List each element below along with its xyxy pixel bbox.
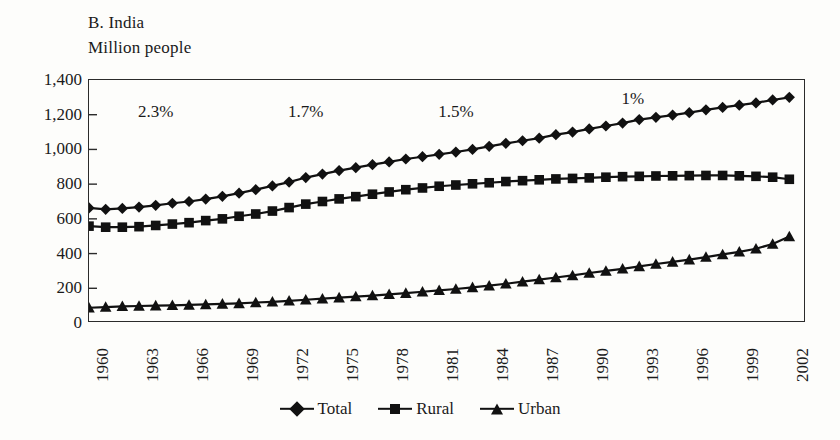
legend-label: Urban (518, 400, 560, 417)
legend-item-total[interactable]: Total (280, 400, 353, 417)
data-point-square (89, 221, 94, 231)
data-point-diamond (634, 114, 645, 125)
chart-legend: TotalRuralUrban (0, 400, 840, 417)
data-point-diamond (534, 133, 545, 144)
data-point-diamond (550, 129, 561, 140)
data-point-diamond (367, 159, 378, 170)
data-point-square (568, 174, 578, 184)
data-point-square (668, 171, 678, 181)
series-line (89, 237, 789, 308)
y-axis-labels: 02004006008001,0001,2001,400 (20, 0, 82, 440)
data-point-triangle (767, 238, 779, 249)
chart-figure: B. India Million people 02004006008001,0… (0, 0, 840, 440)
x-tick-label: 1975 (344, 348, 361, 382)
data-point-square (735, 171, 745, 181)
x-tick-label: 2002 (794, 348, 811, 382)
data-point-diamond (300, 172, 311, 183)
legend-label: Rural (416, 400, 454, 417)
data-point-square (101, 222, 111, 232)
data-point-square (551, 174, 561, 184)
y-tick-label: 400 (26, 244, 82, 261)
data-point-diamond (500, 138, 511, 149)
data-point-square (384, 187, 394, 197)
y-tick-label: 1,000 (26, 140, 82, 157)
data-point-square (401, 185, 411, 195)
data-point-triangle (784, 231, 796, 242)
growth-rate-label: 2.3% (138, 103, 173, 120)
data-point-square (584, 173, 594, 183)
data-point-square (134, 222, 144, 232)
x-tick-label: 1993 (644, 348, 661, 382)
data-point-diamond (784, 92, 795, 103)
x-tick-label: 1960 (94, 348, 111, 382)
data-point-diamond (767, 94, 778, 105)
legend-item-urban[interactable]: Urban (480, 400, 560, 417)
data-point-square (451, 180, 461, 190)
data-point-square (785, 174, 795, 184)
figure-title: B. India (88, 13, 144, 33)
x-tick-label: 1972 (294, 348, 311, 382)
data-point-square (518, 176, 528, 186)
growth-rate-label: 1.7% (288, 103, 323, 120)
x-tick-label: 1990 (594, 348, 611, 382)
data-point-diamond (684, 107, 695, 118)
data-point-diamond (317, 168, 328, 179)
data-point-square (184, 218, 194, 228)
x-tick-label: 1969 (244, 348, 261, 382)
legend-marker-glyph (390, 404, 400, 414)
diamond-icon (280, 402, 314, 416)
data-point-square (351, 192, 361, 202)
data-point-diamond (250, 184, 261, 195)
data-point-diamond (650, 112, 661, 123)
data-point-square (684, 171, 694, 181)
x-tick-label: 1996 (694, 348, 711, 382)
data-point-diamond (484, 141, 495, 152)
data-point-square (234, 211, 244, 221)
data-point-square (718, 171, 728, 181)
data-point-diamond (384, 156, 395, 167)
y-tick-label: 1,400 (26, 71, 82, 88)
data-point-square (418, 183, 428, 193)
data-point-square (484, 178, 494, 188)
data-point-diamond (217, 191, 228, 202)
data-point-square (618, 172, 628, 182)
data-point-diamond (434, 149, 445, 160)
data-point-diamond (167, 198, 178, 209)
x-tick-label: 1999 (744, 348, 761, 382)
data-point-diamond (100, 204, 111, 215)
data-point-square (318, 197, 328, 207)
growth-rate-label: 1% (622, 90, 645, 107)
data-point-square (151, 221, 161, 231)
data-point-diamond (734, 100, 745, 111)
data-point-diamond (133, 201, 144, 212)
series-urban (89, 231, 795, 313)
data-point-diamond (283, 176, 294, 187)
legend-label: Total (318, 400, 353, 417)
data-point-diamond (667, 109, 678, 120)
triangle-icon (480, 402, 514, 416)
data-point-square (434, 181, 444, 191)
data-point-diamond (334, 165, 345, 176)
data-point-diamond (450, 146, 461, 157)
data-point-square (301, 199, 311, 209)
data-point-diamond (517, 135, 528, 146)
data-point-square (218, 214, 228, 224)
data-point-diamond (200, 193, 211, 204)
legend-item-rural[interactable]: Rural (378, 400, 454, 417)
x-tick-label: 1963 (144, 348, 161, 382)
data-point-square (601, 172, 611, 182)
data-point-square (701, 171, 711, 181)
data-point-diamond (750, 97, 761, 108)
data-point-square (751, 172, 761, 182)
data-point-square (268, 206, 278, 216)
data-point-diamond (89, 202, 95, 213)
data-point-diamond (400, 153, 411, 164)
data-point-diamond (350, 162, 361, 173)
data-point-square (368, 189, 378, 199)
y-tick-label: 1,200 (26, 105, 82, 122)
data-point-square (168, 219, 178, 229)
data-point-diamond (584, 123, 595, 134)
data-point-square (334, 194, 344, 204)
legend-marker-glyph (491, 403, 503, 414)
y-tick-label: 200 (26, 279, 82, 296)
